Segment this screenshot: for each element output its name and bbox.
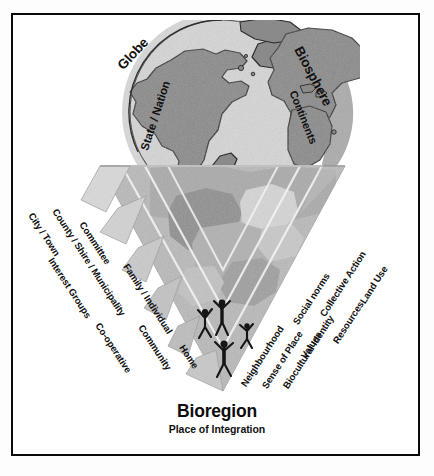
caption-title: Bioregion	[0, 401, 434, 421]
caption-subtitle: Place of Integration	[0, 422, 434, 436]
caption-block: Bioregion Place of Integration	[0, 401, 434, 436]
bioregion-diagram: Globe State / Nation Biosphere Continent…	[0, 0, 434, 476]
